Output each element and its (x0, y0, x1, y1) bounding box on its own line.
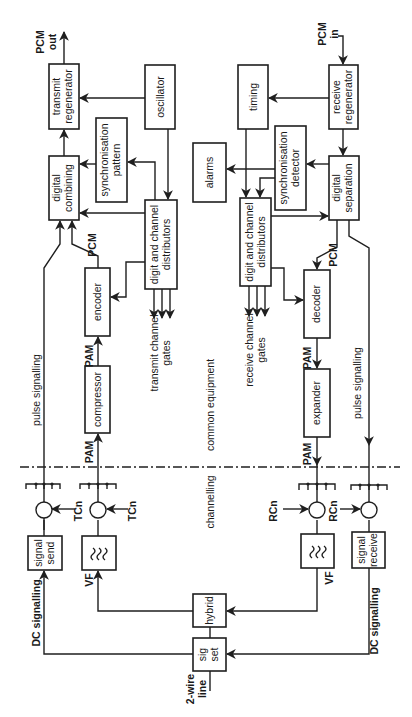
block-label-line: alarms (203, 157, 215, 189)
pcm-block-diagram: transmit regenerator oscillator digital … (0, 0, 412, 717)
block-encoder: encoder (85, 268, 110, 336)
block-hybrid: hybrid (193, 594, 226, 627)
gate-comb-tx-speech (80, 482, 116, 489)
block-label-line: expander (310, 381, 322, 425)
block-digital-combining: digital combining (49, 156, 79, 220)
label-pam-tx-2: PAM (83, 440, 95, 463)
label-vf-tx: VF (83, 573, 95, 587)
block-label-line: compressor (91, 372, 103, 427)
block-label-line: hybrid (203, 596, 215, 625)
label-rcn-1: RCn (267, 500, 279, 522)
label-channelling: channelling (204, 475, 216, 528)
block-label-line: pattern (110, 144, 122, 177)
block-label-line: transmit (50, 78, 62, 115)
label-rx-gates: gates (255, 337, 267, 363)
label-pcm-in: in (328, 29, 340, 38)
label-pulse-signalling-rx: pulse signalling (351, 347, 363, 419)
wire-syncdet-to-rxdist (260, 178, 275, 197)
block-label-line: synchronisation (98, 123, 110, 196)
label-pam-tx-1: PAM (83, 344, 95, 367)
block-label-line: receive (330, 80, 342, 114)
label-common-equipment: common equipment (204, 359, 216, 451)
wire-dist-to-encoder (111, 262, 145, 297)
gate-comb-rx-speech (299, 482, 335, 490)
block-compressor: compressor (85, 366, 110, 433)
block-expander: expander (304, 369, 330, 437)
label-2wire-line: 2-wire (184, 674, 196, 705)
block-transmit-regenerator: transmit regenerator (49, 64, 79, 129)
block-label-line: synchronisation (277, 131, 289, 204)
label-tx-gates: transmit channel (148, 314, 160, 391)
block-signal-send: signal send (28, 536, 62, 570)
label-pulse-signalling-tx: pulse signalling (30, 354, 42, 426)
block-label-line: digital (50, 174, 62, 201)
block-rx-filter (301, 534, 334, 568)
label-pam-rx-1: PAM (301, 346, 313, 369)
gate-node-tx-speech (90, 502, 106, 518)
block-label-line: decoder (310, 285, 322, 323)
block-tx-filter (82, 536, 116, 570)
label-rx-gates: receive channel (243, 313, 255, 387)
block-receive-regenerator: receive regenerator (329, 65, 358, 129)
block-label-line: separation (342, 163, 354, 212)
wire-sigset-to-send (44, 571, 193, 654)
block-label-line: sig (196, 648, 208, 662)
block-label-line: distributors (160, 219, 172, 270)
block-label-line: combining (62, 164, 74, 212)
block-tx-distributors: digit and channel distributors (145, 200, 177, 289)
block-label-line: detector (289, 149, 301, 187)
block-alarms: alarms (193, 143, 226, 202)
block-label-line: distributors (255, 216, 267, 267)
gate-node-rx-signal (361, 502, 377, 518)
gate-comb-tx-signal (26, 482, 60, 489)
label-pcm-tx: PCM (86, 233, 98, 257)
wire-hybrid-to-txfilter (98, 571, 193, 611)
block-timing: timing (238, 65, 268, 129)
gate-node-rx-speech (309, 502, 325, 518)
block-label-line: signal (32, 539, 44, 566)
wire-rxdist-to-decoder (271, 268, 303, 300)
wire-pcm-in (338, 36, 343, 64)
label-pam-rx-2: PAM (301, 442, 313, 465)
block-label-line: signal (355, 536, 367, 563)
block-label-line: digit and channel (148, 205, 160, 284)
block-label-line: oscillator (154, 76, 166, 118)
gate-comb-rx-signal (351, 483, 387, 490)
label-pcm-out: out (46, 33, 58, 50)
block-label-line: send (44, 541, 56, 564)
block-label-line: receive (367, 533, 379, 567)
block-sync-detector: synchronisation detector (275, 126, 306, 210)
wire-dist-to-syncpat (128, 162, 155, 200)
block-label-line: timing (247, 83, 259, 111)
label-dc-signalling-rx: DC signalling (368, 587, 380, 654)
block-sync-pattern: synchronisation pattern (96, 118, 127, 202)
label-pcm-rx: PCM (327, 243, 339, 267)
block-decoder: decoder (304, 270, 330, 338)
block-label-line: encoder (91, 283, 103, 321)
block-label-line: set (208, 647, 220, 661)
block-label-line: regenerator (342, 69, 354, 124)
label-tcn-2: TCn (126, 501, 138, 521)
label-2wire-line: line (196, 680, 208, 698)
block-label-line: digit and channel (243, 202, 255, 281)
label-pcm-in: PCM (316, 22, 328, 46)
block-label-line: regenerator (62, 69, 74, 124)
block-sig-set: sig set (193, 638, 226, 671)
label-vf-rx: VF (323, 571, 335, 585)
label-tx-gates: gates (160, 340, 172, 366)
block-oscillator: oscillator (145, 65, 175, 129)
block-digital-separation: digital separation (329, 156, 359, 220)
wire-rxfilter-to-hybrid (227, 568, 317, 611)
block-rx-distributors: digit and channel distributors (240, 198, 271, 286)
gate-node-tx-signal (36, 502, 52, 518)
label-tcn-1: TCn (72, 501, 84, 521)
block-signal-receive: signal receive (352, 532, 385, 568)
block-label-line: digital (330, 174, 342, 201)
label-pcm-out: PCM (34, 30, 46, 54)
label-rcn-2: RCn (327, 500, 339, 522)
label-dc-signalling-tx: DC signalling (30, 579, 42, 646)
